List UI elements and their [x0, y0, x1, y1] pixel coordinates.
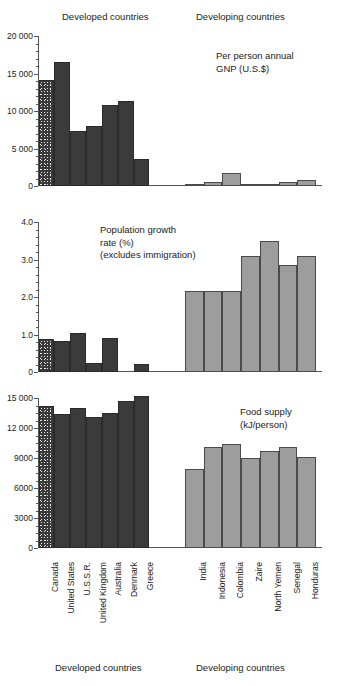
bar [279, 182, 298, 186]
chart-panel-population-growth: Population growthrate (%)(excludes immig… [0, 214, 346, 386]
bar [204, 291, 223, 372]
y-axis-tick-label: 3000 [14, 513, 33, 523]
y-axis-tick-label: 4.0 [21, 217, 33, 227]
bar [297, 256, 316, 372]
y-axis-tick-label: 0 [28, 367, 33, 377]
bar [222, 444, 241, 548]
y-axis-tick [34, 548, 38, 549]
y-axis-tick-label: 3.0 [21, 255, 33, 265]
x-axis-label-colombia: Colombia [235, 562, 245, 598]
bar [279, 265, 298, 372]
bar [241, 184, 260, 186]
y-axis-tick-label: 12 000 [7, 423, 33, 433]
y-axis-tick-label: 10 000 [7, 106, 33, 116]
bar [204, 447, 223, 548]
bar [279, 447, 298, 548]
bar-group-gnp [38, 36, 322, 186]
bar-group-food-supply [38, 398, 322, 548]
plot-area-gnp: 05 00010 00015 00020 000 [38, 36, 322, 186]
bar [222, 173, 241, 186]
bar [86, 363, 102, 372]
x-axis-label-united-kingdom: United Kingdom [98, 562, 108, 623]
y-axis-tick [34, 372, 38, 373]
bar [134, 396, 150, 548]
bar [39, 80, 55, 186]
bar [260, 241, 279, 372]
plot-area-food-supply: 030006000900012 00015 000 [38, 398, 322, 548]
y-axis-tick-label: 0 [28, 181, 33, 191]
x-axis-label-indonesia: Indonesia [217, 562, 227, 599]
bar [86, 417, 102, 548]
y-axis-tick-label: 6000 [14, 483, 33, 493]
y-axis-tick-label: 1.0 [21, 330, 33, 340]
footer-developing-countries: Developing countries [196, 662, 285, 673]
bar [297, 180, 316, 186]
bar [241, 458, 260, 548]
x-axis-label-australia: Australia [113, 562, 123, 595]
x-axis-label-u-s-s-r-: U.S.S.R. [82, 562, 92, 595]
y-axis-tick [34, 186, 38, 187]
bar [39, 406, 55, 548]
y-axis-tick-label: 2.0 [21, 292, 33, 302]
y-axis-tick-label: 15 000 [7, 393, 33, 403]
plot-area-population-growth: 01.02.03.04.0 [38, 222, 322, 372]
x-axis-label-north-yemen: North Yemen [273, 562, 283, 612]
bar [134, 159, 150, 186]
bar [70, 333, 86, 372]
x-axis-label-senegal: Senegal [292, 562, 302, 594]
bar-group-population-growth [38, 222, 322, 372]
x-axis-label-canada: Canada [50, 562, 60, 592]
bar [102, 338, 118, 373]
bar [39, 339, 55, 372]
bar [70, 408, 86, 548]
bar [102, 105, 118, 186]
x-axis-label-united-states: United States [66, 562, 76, 614]
y-axis-tick-label: 9000 [14, 453, 33, 463]
bar [222, 291, 241, 372]
x-axis-label-denmark: Denmark [129, 562, 139, 597]
bar [260, 184, 279, 186]
footer-developed-countries: Developed countries [55, 662, 142, 673]
bar [54, 414, 70, 548]
bar [118, 101, 134, 186]
bar [185, 291, 204, 372]
bar [86, 126, 102, 186]
x-axis-country-labels: CanadaUnited StatesU.S.S.R.United Kingdo… [38, 562, 322, 638]
bar [297, 457, 316, 549]
bar [241, 256, 260, 372]
x-axis-label-zaire: Zaire [254, 562, 264, 582]
y-axis-tick-label: 0 [28, 543, 33, 553]
bar [204, 182, 223, 186]
x-axis-label-india: India [198, 562, 208, 581]
y-axis-tick-label: 15 000 [7, 69, 33, 79]
chart-panel-food-supply: Food supply(kJ/person) 030006000900012 0… [0, 390, 346, 562]
figure-three-panel-bar-charts: Developed countries Developing countries… [0, 0, 346, 686]
bar [54, 62, 70, 187]
header-developed-countries: Developed countries [62, 11, 149, 22]
bar [185, 469, 204, 548]
bar [134, 364, 150, 372]
bar [54, 341, 70, 372]
bar [70, 131, 86, 186]
chart-panel-gnp: Per person annualGNP (U.S.$) 05 00010 00… [0, 28, 346, 200]
bar [102, 413, 118, 548]
x-axis-label-honduras: Honduras [310, 562, 320, 599]
y-axis-tick-label: 5 000 [12, 144, 33, 154]
header-developing-countries: Developing countries [196, 11, 285, 22]
bar [260, 451, 279, 548]
x-axis-label-greece: Greece [145, 562, 155, 590]
bar [185, 184, 204, 186]
bar [118, 401, 134, 548]
y-axis-tick-label: 20 000 [7, 31, 33, 41]
